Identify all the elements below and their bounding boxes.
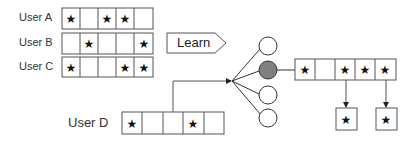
svg-text:★: ★ — [139, 61, 150, 75]
svg-text:★: ★ — [381, 113, 392, 127]
svg-text:★: ★ — [120, 12, 131, 26]
user-a-label: User A — [19, 11, 52, 23]
network-node — [259, 37, 277, 55]
network-node — [259, 86, 277, 104]
diagram-canvas: ★★★ ★★ ★★★ ★★ ★★★★ ★★ — [0, 0, 413, 141]
network-node-active — [259, 61, 277, 79]
user-b-label: User B — [19, 36, 53, 48]
svg-text:★: ★ — [66, 61, 77, 75]
svg-text:★: ★ — [84, 37, 95, 51]
star-icons: ★★★ ★★ ★★★ ★★ ★★★★ ★★ — [66, 12, 392, 131]
svg-text:★: ★ — [300, 63, 311, 77]
svg-text:★: ★ — [120, 61, 131, 75]
user-d-label: User D — [68, 115, 108, 130]
user-c-label: User C — [19, 60, 53, 72]
user-d-connector — [173, 81, 231, 112]
svg-text:★: ★ — [380, 63, 391, 77]
fan-lines — [232, 49, 261, 115]
svg-text:★: ★ — [139, 37, 150, 51]
svg-text:★: ★ — [127, 117, 138, 131]
learn-label: Learn — [177, 35, 210, 50]
svg-text:★: ★ — [102, 12, 113, 26]
svg-text:★: ★ — [66, 12, 77, 26]
svg-text:★: ★ — [341, 113, 352, 127]
svg-text:★: ★ — [188, 117, 199, 131]
svg-text:★: ★ — [360, 63, 371, 77]
network-node — [259, 109, 277, 127]
svg-text:★: ★ — [340, 63, 351, 77]
